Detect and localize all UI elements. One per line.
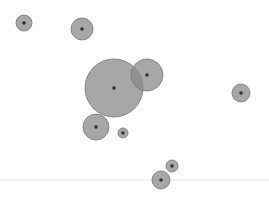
bubble-chart-canvas	[0, 0, 269, 200]
bubble-center-dot	[145, 73, 149, 77]
bubble	[152, 171, 170, 189]
bubble-center-dot	[239, 91, 243, 95]
bubble	[232, 84, 250, 102]
bubble	[83, 114, 109, 140]
bubble-chart	[0, 0, 269, 200]
bubble	[131, 59, 163, 91]
bubble-center-dot	[159, 178, 163, 182]
bubble-center-dot	[80, 27, 84, 31]
bubble-group	[16, 15, 250, 189]
bubble-center-dot	[22, 21, 26, 25]
bubble-center-dot	[170, 164, 174, 168]
bubble-center-dot	[112, 86, 116, 90]
bubble	[16, 15, 32, 31]
bubble	[71, 18, 93, 40]
bubble	[166, 160, 178, 172]
bubble-center-dot	[94, 125, 98, 129]
bubble-center-dot	[121, 131, 125, 135]
bubble	[118, 128, 128, 138]
